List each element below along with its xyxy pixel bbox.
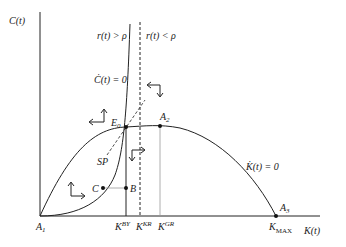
k-kr-tick: KKR bbox=[135, 220, 152, 232]
k-dot-label: K̇(t) = 0 bbox=[245, 161, 279, 173]
arrow-middle bbox=[129, 147, 145, 161]
arrow-lower-left bbox=[68, 182, 85, 199]
a2-label: A2 bbox=[159, 111, 170, 124]
point-c bbox=[101, 186, 105, 190]
region-left-label: r(t) > ρ bbox=[97, 30, 127, 42]
phase-diagram: C(t) K(t) r(t) > ρ r(t) < ρ Ċ(t) = 0 K̇(… bbox=[0, 0, 346, 247]
y-axis-label: C(t) bbox=[9, 15, 26, 27]
k-dot-curve bbox=[40, 126, 276, 216]
arrow-upper-left bbox=[89, 109, 107, 125]
point-e0 bbox=[124, 125, 128, 129]
a1-label: A1 bbox=[35, 221, 46, 234]
b-label: B bbox=[130, 183, 136, 194]
c-dot-label: Ċ(t) = 0 bbox=[94, 74, 127, 86]
point-b bbox=[124, 186, 128, 190]
point-a3 bbox=[274, 214, 278, 218]
arrow-upper-right bbox=[147, 82, 163, 97]
region-right-label: r(t) < ρ bbox=[146, 30, 176, 42]
k-gr-tick: KGR bbox=[157, 220, 175, 232]
saddle-path-label: SP bbox=[97, 156, 108, 167]
x-axis-label: K(t) bbox=[303, 225, 321, 237]
c-label: C bbox=[92, 183, 99, 194]
k-max-tick: KMAX bbox=[268, 221, 292, 235]
point-a2 bbox=[158, 124, 162, 128]
k-by-tick: KBY bbox=[114, 220, 131, 232]
a3-label: A3 bbox=[279, 202, 290, 215]
